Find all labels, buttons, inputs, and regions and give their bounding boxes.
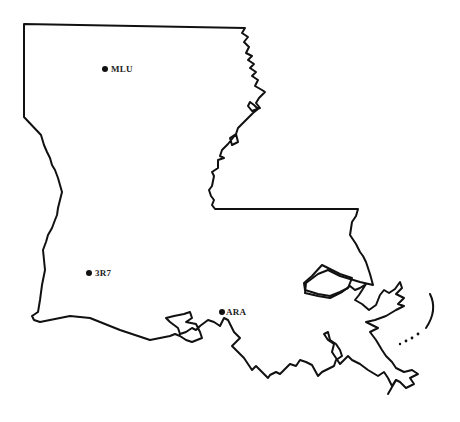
station-label: 3R7 <box>95 268 111 278</box>
station-marker-mlu: MLU <box>102 64 133 74</box>
station-marker-3r7: 3R7 <box>86 268 111 278</box>
location-dot-icon <box>102 66 108 72</box>
island-dot <box>411 337 414 340</box>
chandeleur-islands <box>426 294 433 328</box>
location-dot-icon <box>86 270 92 276</box>
island-dot <box>405 340 408 343</box>
louisiana-map <box>0 0 460 422</box>
island-dot <box>417 333 420 336</box>
station-label: MLU <box>111 64 133 74</box>
location-dot-icon <box>219 309 225 315</box>
station-label: ARA <box>226 307 246 317</box>
state-outline <box>24 24 418 388</box>
station-marker-ara: ARA <box>219 307 246 317</box>
island-dot <box>399 343 401 345</box>
